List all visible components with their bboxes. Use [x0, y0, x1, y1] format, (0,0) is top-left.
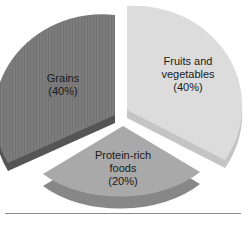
label-protein-percent: (20%) [83, 175, 163, 188]
label-fruits-vegetables: Fruits and vegetables (40%) [148, 55, 228, 94]
label-grains-name: Grains [28, 72, 98, 85]
pie-chart [0, 0, 244, 227]
label-fruits-name-2: vegetables [148, 68, 228, 81]
label-protein-name-1: Protein-rich [83, 149, 163, 162]
label-protein-rich-foods: Protein-rich foods (20%) [83, 149, 163, 188]
label-fruits-percent: (40%) [148, 81, 228, 94]
label-grains: Grains (40%) [28, 72, 98, 98]
baseline-divider [5, 213, 241, 214]
label-protein-name-2: foods [83, 162, 163, 175]
label-grains-percent: (40%) [28, 85, 98, 98]
label-fruits-name-1: Fruits and [148, 55, 228, 68]
